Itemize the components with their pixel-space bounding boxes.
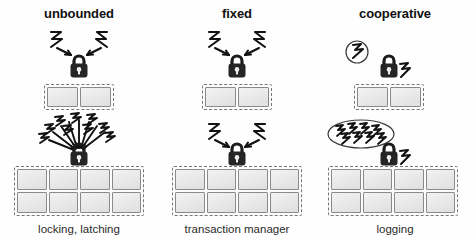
core-cell [207, 169, 237, 190]
core-cell [175, 192, 205, 213]
column-caption-unbounded: locking, latching [0, 223, 158, 235]
column-cooperative: cooperative [316, 0, 474, 241]
core-cell [80, 169, 110, 190]
padlock-icon [378, 141, 400, 167]
core-cell [47, 87, 78, 107]
core-cell [270, 169, 300, 190]
core-cell [426, 169, 456, 190]
core-cell [49, 169, 79, 190]
padlock-icon [378, 53, 400, 79]
core-cell [207, 192, 237, 213]
core-cell [112, 192, 142, 213]
padlock-icon [68, 53, 90, 79]
core-cell [357, 87, 388, 107]
core-cell [80, 192, 110, 213]
core-group-fixed-top [202, 84, 272, 110]
bolt-side-icon [398, 148, 416, 168]
padlock-icon [226, 53, 248, 79]
core-cell [112, 169, 142, 190]
core-group-cooperative-top [354, 84, 424, 110]
column-caption-fixed: transaction manager [158, 223, 316, 235]
core-cell [238, 169, 268, 190]
core-cell [363, 192, 393, 213]
core-cell [49, 192, 79, 213]
core-cell [17, 192, 47, 213]
core-cell [426, 192, 456, 213]
core-cell [205, 87, 236, 107]
core-cell [331, 169, 361, 190]
padlock-icon [68, 141, 90, 167]
core-cell [390, 87, 421, 107]
bolt-bubble-icon [342, 38, 372, 66]
column-header-unbounded: unbounded [0, 6, 158, 21]
core-cell [394, 192, 424, 213]
core-cell [270, 192, 300, 213]
scalability-figure: unbounded [0, 0, 474, 241]
core-group-unbounded-bottom [14, 166, 144, 216]
column-unbounded: unbounded [0, 0, 158, 241]
core-group-fixed-bottom [172, 166, 302, 216]
column-header-cooperative: cooperative [316, 6, 474, 21]
core-group-unbounded-top [44, 84, 114, 110]
column-header-fixed: fixed [158, 6, 316, 21]
core-cell [394, 169, 424, 190]
core-group-cooperative-bottom [328, 166, 458, 216]
core-cell [331, 192, 361, 213]
column-caption-cooperative: logging [316, 223, 474, 235]
core-cell [363, 169, 393, 190]
padlock-icon [226, 141, 248, 167]
core-cell [80, 87, 111, 107]
core-cell [17, 169, 47, 190]
column-fixed: fixed [158, 0, 316, 241]
core-cell [238, 87, 269, 107]
core-cell [175, 169, 205, 190]
core-cell [238, 192, 268, 213]
bolt-side-icon [398, 61, 416, 81]
